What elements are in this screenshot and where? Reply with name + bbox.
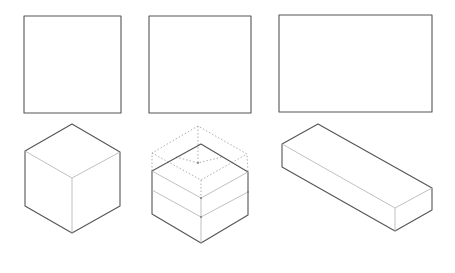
square-1 <box>24 16 121 113</box>
cube-2 <box>152 126 249 243</box>
isometric-diagram <box>0 0 455 273</box>
cube-1 <box>25 124 120 233</box>
box-3 <box>282 124 432 231</box>
rectangle-3 <box>279 15 432 112</box>
square-2 <box>149 16 251 113</box>
